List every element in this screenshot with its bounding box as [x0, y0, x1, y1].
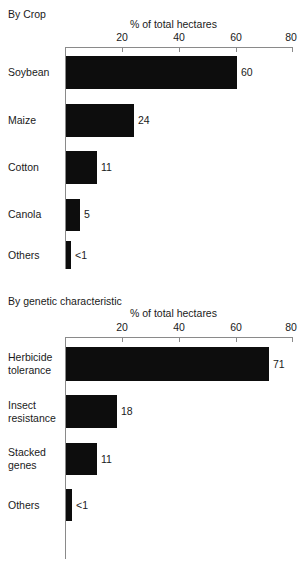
chart-panel-by-genetic-characteristic: By genetic characteristic % of total hec… [0, 283, 307, 566]
panel-title-by-genetic-characteristic: By genetic characteristic [8, 295, 122, 307]
bar-others [66, 241, 71, 269]
bar-insect-resistance [66, 395, 117, 428]
bar-maize [66, 104, 134, 137]
bar-value-cotton: 11 [101, 161, 112, 173]
category-label-others: Others [8, 249, 40, 262]
x-tick-label-60-2: 60 [230, 321, 242, 333]
x-tick-40 [179, 47, 180, 52]
x-tick-label-40-2: 40 [173, 321, 185, 333]
bar-value-soybean: 60 [241, 66, 253, 78]
category-label-stacked-genes: Stacked genes [8, 446, 46, 471]
bar-value-others-2: <1 [76, 499, 88, 511]
category-label-others-2: Others [8, 499, 40, 512]
bar-cotton [66, 151, 97, 184]
x-axis-line-2 [65, 337, 293, 338]
x-tick-label-20: 20 [116, 31, 128, 43]
axis-title-percent-total-hectares-2: % of total hectares [130, 307, 217, 319]
bar-value-insect-resistance: 18 [121, 405, 133, 417]
x-tick-80 [292, 47, 293, 52]
bar-value-canola: 5 [84, 208, 90, 220]
category-label-insect-resistance: Insect resistance [8, 399, 56, 424]
category-label-maize: Maize [8, 114, 36, 127]
x-tick-label-80-2: 80 [285, 321, 297, 333]
bar-value-herbicide-tolerance: 71 [273, 358, 285, 370]
bar-soybean [66, 56, 237, 89]
x-axis-line [65, 47, 293, 48]
x-tick-20 [122, 47, 123, 52]
category-label-herbicide-tolerance: Herbicide tolerance [8, 351, 52, 376]
x-tick-label-60: 60 [230, 31, 242, 43]
category-label-cotton: Cotton [8, 161, 39, 174]
x-tick-label-80: 80 [285, 31, 297, 43]
bar-others-2 [66, 489, 72, 521]
bar-canola [66, 199, 80, 231]
x-tick-label-40: 40 [173, 31, 185, 43]
axis-title-percent-total-hectares: % of total hectares [130, 18, 217, 30]
bar-herbicide-tolerance [66, 347, 269, 381]
panel-title-by-crop: By Crop [8, 8, 46, 20]
bar-value-maize: 24 [138, 114, 150, 126]
bar-stacked-genes [66, 443, 97, 475]
chart-panel-by-crop: By Crop % of total hectares 20 40 60 80 … [0, 0, 307, 283]
bar-value-others: <1 [75, 249, 87, 261]
x-tick-80-2 [292, 337, 293, 342]
x-tick-label-20-2: 20 [116, 321, 128, 333]
x-tick-60-2 [236, 337, 237, 342]
category-label-soybean: Soybean [8, 66, 49, 79]
bar-value-stacked-genes: 11 [101, 453, 112, 465]
x-tick-60 [236, 47, 237, 52]
x-tick-20-2 [122, 337, 123, 342]
category-label-canola: Canola [8, 208, 41, 221]
x-tick-40-2 [179, 337, 180, 342]
